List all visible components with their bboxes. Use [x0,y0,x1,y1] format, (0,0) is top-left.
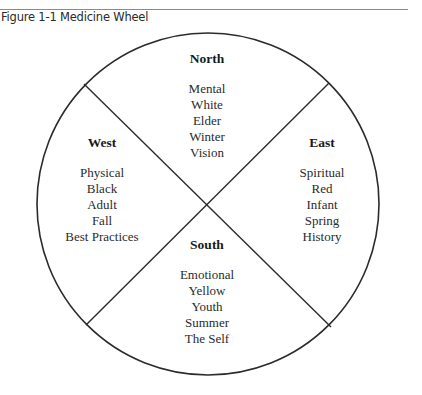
list-item: Black [32,181,172,197]
list-item: Spring [252,213,392,229]
quadrant-heading-south: South [137,237,277,253]
list-item: Adult [32,197,172,213]
list-item: Physical [32,165,172,181]
list-item: Spiritual [252,165,392,181]
list-item: Youth [137,299,277,315]
list-item: Emotional [137,267,277,283]
quadrant-heading-north: North [137,51,277,67]
list-item: White [137,97,277,113]
list-item: Infant [252,197,392,213]
quadrant-east: East Spiritual Red Infant Spring History [252,135,392,245]
quadrant-south: South Emotional Yellow Youth Summer The … [137,237,277,347]
list-item: Elder [137,113,277,129]
quadrant-heading-west: West [32,135,172,151]
list-item: Summer [137,315,277,331]
list-item: Yellow [137,283,277,299]
list-item: Mental [137,81,277,97]
list-item: The Self [137,331,277,347]
list-item: Red [252,181,392,197]
quadrant-west: West Physical Black Adult Fall Best Prac… [32,135,172,245]
list-item: Fall [32,213,172,229]
quadrant-heading-east: East [252,135,392,151]
